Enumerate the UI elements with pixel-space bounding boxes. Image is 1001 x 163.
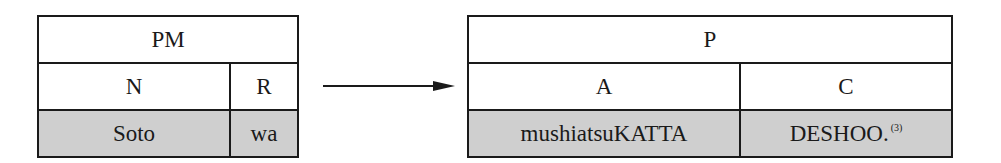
footnote-marker: (3)	[891, 122, 903, 133]
r-label: R	[230, 63, 298, 110]
pm-structure-table: PM N R Soto wa	[37, 15, 299, 158]
n-label: N	[38, 63, 230, 110]
p-structure-table: P A C mushiatsuKATTA DESHOO.(3)	[467, 15, 953, 158]
pm-header: PM	[38, 16, 298, 63]
arrow-right-icon	[323, 79, 455, 93]
c-label: C	[740, 63, 952, 110]
c-value: DESHOO.	[790, 121, 889, 146]
n-value: Soto	[38, 110, 230, 157]
c-value-cell: DESHOO.(3)	[740, 110, 952, 157]
a-label: A	[468, 63, 740, 110]
r-value: wa	[230, 110, 298, 157]
a-value: mushiatsuKATTA	[468, 110, 740, 157]
p-header: P	[468, 16, 952, 63]
